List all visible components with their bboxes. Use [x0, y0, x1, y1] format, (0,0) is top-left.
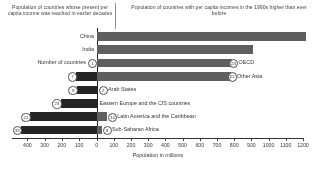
diverging-bar-chart: Population of countries whose present pe… — [0, 0, 316, 169]
x-tick — [251, 138, 252, 141]
x-tick — [303, 138, 304, 141]
count-badge-oecd-positive: 23 — [229, 59, 238, 68]
table-row: China — [12, 30, 304, 43]
count-badge-eastern-europe-negative: 23 — [52, 99, 61, 108]
header-divider — [115, 3, 116, 29]
count-badge-latin-america-positive: 14 — [108, 113, 117, 122]
x-tick — [45, 138, 46, 141]
x-tick — [79, 138, 80, 141]
count-badge-sub-saharan-positive: 8 — [103, 126, 112, 135]
cat-label-number-of-countries: Number of countries — [12, 59, 86, 65]
x-tick — [234, 138, 235, 141]
cat-label-latin-america: Latin America and the Caribbean — [117, 113, 196, 119]
x-tick — [97, 138, 98, 141]
x-tick — [62, 138, 63, 141]
chart-header-right: Population of countries with per capita … — [128, 4, 310, 16]
cat-label-sub-saharan: Sub-Saharan Africa — [112, 126, 159, 132]
bar-arab-states-negative — [77, 86, 97, 95]
count-badge-arab-states-positive: 2 — [99, 86, 108, 95]
count-badge-other-asia-positive: 22 — [228, 72, 237, 81]
cat-label-eastern-europe: Eastern Europe and the CIS countries — [100, 100, 191, 106]
cat-label-arab-states: Arab States — [108, 86, 136, 92]
x-tick — [165, 138, 166, 141]
bar-latin-america-negative — [30, 112, 97, 121]
count-badge-arab-states-negative: 9 — [68, 86, 77, 95]
table-row: 9 2 Arab States — [12, 84, 304, 97]
cat-label-india: India — [12, 46, 94, 52]
plot-area: China India Number of countries 1 23 OEC… — [12, 30, 304, 138]
table-row: Number of countries 1 23 OECD — [12, 57, 304, 70]
x-tick — [131, 138, 132, 141]
chart-header-left: Population of countries whose present pe… — [6, 4, 114, 16]
bar-other-asia-positive — [97, 72, 231, 81]
count-badge-other-asia-negative: 7 — [68, 72, 77, 81]
x-axis-line — [12, 138, 304, 139]
x-tick — [114, 138, 115, 141]
bar-latin-america-positive — [97, 112, 107, 121]
x-tick — [217, 138, 218, 141]
table-row: India — [12, 43, 304, 56]
bar-sub-saharan-negative — [21, 126, 97, 135]
cat-label-china: China — [12, 33, 94, 39]
bar-eastern-europe-negative — [61, 99, 97, 108]
cat-label-oecd: OECD — [239, 59, 255, 65]
bar-china-positive — [97, 32, 307, 41]
bar-sub-saharan-positive — [97, 126, 102, 135]
count-badge-latin-america-negative: 22 — [21, 113, 30, 122]
cat-label-other-asia: Other Asia — [237, 73, 262, 79]
table-row: 33 8 Sub-Saharan Africa — [12, 124, 304, 137]
bar-india-positive — [97, 45, 253, 54]
x-tick — [200, 138, 201, 141]
table-row: 22 14 Latin America and the Caribbean — [12, 110, 304, 123]
table-row: 23 Eastern Europe and the CIS countries — [12, 97, 304, 110]
table-row: 7 22 Other Asia — [12, 70, 304, 83]
x-axis-title: Population in millions — [0, 152, 316, 158]
bar-other-asia-negative — [76, 72, 97, 81]
x-tick — [148, 138, 149, 141]
x-tick — [286, 138, 287, 141]
x-tick — [183, 138, 184, 141]
x-tick — [27, 138, 28, 141]
x-tick — [269, 138, 270, 141]
bar-oecd-positive — [97, 59, 233, 68]
x-tick-label: 1200 — [292, 142, 314, 148]
